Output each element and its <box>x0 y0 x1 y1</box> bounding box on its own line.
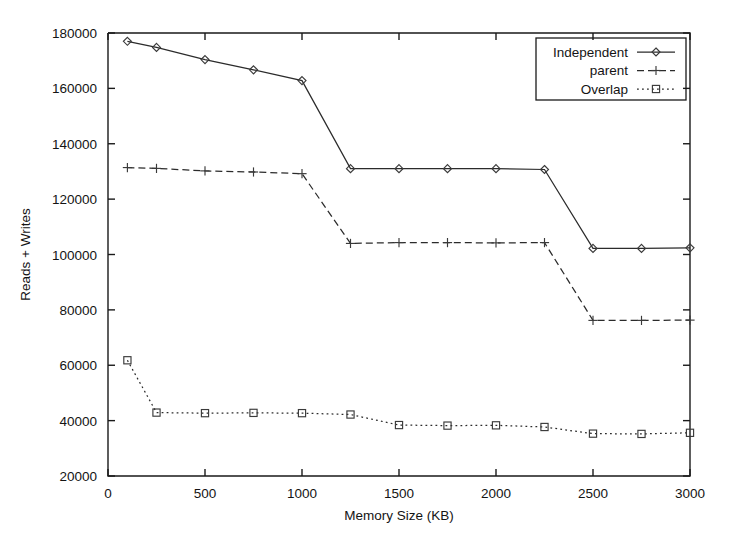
series-parent <box>123 163 695 325</box>
x-tick-label: 3000 <box>675 486 705 501</box>
x-tick-label: 1000 <box>287 486 317 501</box>
chart-legend: IndependentparentOverlap <box>536 38 686 100</box>
marker-plus <box>297 169 306 178</box>
x-tick-label: 2000 <box>481 486 511 501</box>
data-series-layer <box>123 37 695 437</box>
marker-square <box>250 409 257 416</box>
marker-plus <box>491 238 500 247</box>
x-tick-label: 500 <box>194 486 217 501</box>
series-line <box>127 360 690 434</box>
legend-label: Overlap <box>581 82 628 97</box>
axis-tick-labels: 2000040000600008000010000012000014000016… <box>52 26 705 501</box>
series-overlap <box>124 357 694 438</box>
marker-plus <box>123 163 132 172</box>
y-axis-title: Reads + Writes <box>18 208 33 301</box>
chart-canvas: 2000040000600008000010000012000014000016… <box>0 0 734 534</box>
y-tick-label: 60000 <box>59 358 97 373</box>
marker-plus <box>588 316 597 325</box>
marker-plus <box>346 239 355 248</box>
marker-plus <box>152 164 161 173</box>
marker-plus <box>200 166 209 175</box>
x-tick-label: 2500 <box>578 486 608 501</box>
marker-plus <box>651 66 660 75</box>
y-tick-label: 100000 <box>52 248 97 263</box>
chart-figure: 2000040000600008000010000012000014000016… <box>0 0 734 534</box>
legend-label: Independent <box>553 45 628 60</box>
marker-square <box>153 409 160 416</box>
x-tick-label: 1500 <box>384 486 414 501</box>
y-tick-label: 180000 <box>52 26 97 41</box>
marker-plus <box>394 238 403 247</box>
marker-plus <box>249 167 258 176</box>
y-tick-label: 20000 <box>59 469 97 484</box>
x-axis-title: Memory Size (KB) <box>344 508 454 523</box>
y-tick-label: 120000 <box>52 192 97 207</box>
series-line <box>127 168 690 321</box>
y-tick-label: 40000 <box>59 414 97 429</box>
y-tick-label: 80000 <box>59 303 97 318</box>
marker-square <box>444 422 451 429</box>
marker-square <box>124 357 131 364</box>
y-tick-label: 140000 <box>52 137 97 152</box>
marker-plus <box>443 238 452 247</box>
marker-plus <box>540 238 549 247</box>
x-tick-label: 0 <box>104 486 112 501</box>
marker-plus <box>685 316 694 325</box>
y-tick-label: 160000 <box>52 81 97 96</box>
legend-label: parent <box>590 63 629 78</box>
marker-plus <box>637 316 646 325</box>
